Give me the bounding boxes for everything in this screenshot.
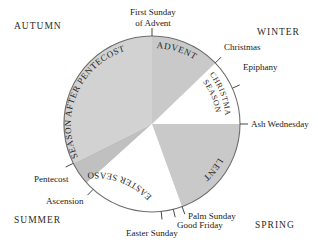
tick-pentecost [66, 164, 73, 168]
liturgical-year-wheel-figure: ADVENT CHRISTMAS SEASON LENT EASTER SEAS… [0, 0, 318, 243]
event-label-ascension: Ascension [46, 196, 84, 206]
event-label-pentecost: Pentecost [34, 174, 69, 184]
tick-good-friday [173, 209, 175, 217]
event-label-ash-wednesday: Ash Wednesday [251, 119, 309, 129]
corner-label-winter: WINTER [257, 27, 300, 37]
corner-label-autumn: AUTUMN [14, 21, 62, 31]
event-label-epiphany: Epiphany [243, 62, 278, 72]
tick-epiphany [232, 85, 239, 88]
tick-ascension [88, 189, 94, 195]
event-label-easter-sunday: Easter Sunday [126, 228, 178, 238]
event-label-good-friday: Good Friday [177, 220, 223, 230]
corner-label-summer: SUMMER [14, 215, 61, 225]
tick-palm-sunday [182, 207, 185, 215]
event-label-first-sunday-of-advent-line2: of Advent [120, 18, 186, 29]
event-label-christmas: Christmas [224, 42, 261, 52]
corner-label-spring: SPRING [255, 220, 295, 230]
tick-easter-sunday [161, 212, 162, 220]
event-label-first-sunday-of-advent: First Sunday of Advent [120, 7, 186, 28]
tick-christmas [215, 57, 221, 63]
event-label-first-sunday-of-advent-line1: First Sunday [120, 7, 186, 18]
